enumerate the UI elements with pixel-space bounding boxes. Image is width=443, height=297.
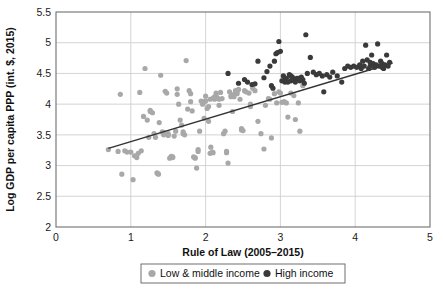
scatter-chart-figure: 22.533.544.555.5 012345 Log GDP per capi… [0,0,443,297]
data-point-low-middle-income [218,90,223,95]
data-point-low-middle-income [161,132,166,137]
data-point-high-income [362,63,367,68]
data-point-low-middle-income [115,149,120,154]
data-point-low-middle-income [178,118,183,123]
y-tick-label: 5.5 [36,6,51,18]
data-point-low-middle-income [142,66,147,71]
data-point-low-middle-income [166,133,171,138]
data-point-high-income [360,59,365,64]
data-point-low-middle-income [137,90,142,95]
data-point-low-middle-income [239,127,244,132]
data-point-low-middle-income [181,129,186,134]
data-point-low-middle-income [145,118,150,123]
data-point-low-middle-income [261,146,266,151]
data-point-low-middle-income [139,148,144,153]
data-point-high-income [335,73,340,78]
legend-swatch-high-income [263,270,270,277]
data-point-low-middle-income [175,92,180,97]
data-point-low-middle-income [216,103,221,108]
data-point-high-income [375,41,380,46]
data-point-low-middle-income [224,150,229,155]
data-point-high-income [387,60,392,65]
data-point-high-income [339,79,344,84]
y-tick-label: 4.5 [36,67,51,79]
data-point-high-income [267,63,272,68]
data-point-low-middle-income [190,108,195,113]
data-point-high-income [321,89,326,94]
data-point-high-income [272,59,277,64]
data-point-low-middle-income [128,149,133,154]
data-point-low-middle-income [197,129,202,134]
data-point-low-middle-income [237,97,242,102]
data-point-low-middle-income [285,114,290,119]
legend-swatch-low-middle-income [148,270,155,277]
x-axis-title: Rule of Law (2005–2015) [182,246,303,258]
data-point-low-middle-income [155,171,160,176]
data-point-high-income [305,71,310,76]
x-tick-label: 3 [277,231,283,243]
data-point-low-middle-income [213,93,218,98]
data-point-low-middle-income [269,135,274,140]
x-tick-label: 1 [128,231,134,243]
data-point-low-middle-income [141,114,146,119]
data-point-high-income [296,76,301,81]
data-point-low-middle-income [185,106,190,111]
data-point-low-middle-income [222,129,227,134]
data-point-low-middle-income [207,151,212,156]
data-point-low-middle-income [272,91,277,96]
data-point-low-middle-income [274,100,279,105]
data-point-high-income [363,43,368,48]
y-tick-label: 2.5 [36,190,51,202]
data-point-low-middle-income [157,120,162,125]
data-point-high-income [264,69,269,74]
data-point-low-middle-income [118,92,123,97]
data-point-low-middle-income [148,109,153,114]
y-tick-label: 5 [45,36,51,48]
legend-label-high-income[interactable]: High income [275,267,334,279]
data-point-low-middle-income [297,129,302,134]
data-point-low-middle-income [246,90,251,95]
y-tick-label: 4 [45,98,51,110]
data-point-high-income [225,71,230,76]
chart-canvas: 22.533.544.555.5 012345 Log GDP per capi… [0,0,443,297]
data-point-low-middle-income [284,100,289,105]
data-point-high-income [245,79,250,84]
data-point-low-middle-income [194,165,199,170]
legend-label-low-middle-income[interactable]: Low & middle income [160,267,260,279]
data-point-high-income [368,60,373,65]
data-point-low-middle-income [278,90,283,95]
y-axis-title: Log GDP per capita PPP (int. $, 2015) [4,27,16,212]
data-point-low-middle-income [258,131,263,136]
x-tick-label: 2 [203,231,209,243]
data-point-high-income [320,73,325,78]
data-point-low-middle-income [158,73,163,78]
data-point-low-middle-income [242,88,247,93]
data-point-high-income [270,86,275,91]
data-point-low-middle-income [203,94,208,99]
data-point-high-income [282,79,287,84]
data-point-low-middle-income [203,98,208,103]
data-point-high-income [308,55,313,60]
x-tick-label: 5 [427,231,433,243]
data-point-low-middle-income [231,92,236,97]
x-tick-label: 0 [53,231,59,243]
data-point-low-middle-income [263,103,268,108]
data-point-high-income [302,81,307,86]
data-point-low-middle-income [206,104,211,109]
y-tick-label: 3 [45,159,51,171]
data-point-high-income [278,49,283,54]
data-point-low-middle-income [172,133,177,138]
chart-legend[interactable]: Low & middle income High income [141,264,345,283]
data-point-low-middle-income [255,119,260,124]
data-point-low-middle-income [170,154,175,159]
data-point-low-middle-income [175,86,180,91]
data-point-low-middle-income [176,102,181,107]
data-point-low-middle-income [188,91,193,96]
data-point-low-middle-income [208,145,213,150]
data-point-high-income [330,70,335,75]
data-point-high-income [261,75,266,80]
y-tick-label: 2 [45,221,51,233]
data-point-low-middle-income [296,100,301,105]
data-point-high-income [303,32,308,37]
data-point-low-middle-income [193,156,198,161]
